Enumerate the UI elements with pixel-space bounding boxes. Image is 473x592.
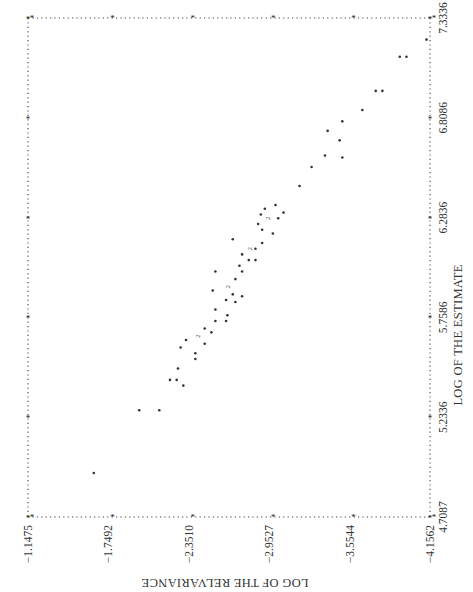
data-point bbox=[226, 314, 229, 317]
data-point bbox=[182, 384, 185, 387]
svg-text:*: * bbox=[351, 512, 356, 522]
data-point bbox=[254, 247, 257, 250]
data-point bbox=[272, 232, 275, 235]
y-tick-label: −4.1562 bbox=[424, 525, 436, 563]
data-points: 2222 bbox=[93, 38, 428, 474]
data-point bbox=[247, 259, 250, 262]
x-tick-label: 6.8086 bbox=[437, 102, 449, 134]
data-point bbox=[282, 211, 285, 214]
y-tick-label: −1.7492 bbox=[102, 525, 114, 563]
data-point bbox=[254, 259, 257, 262]
svg-text:*: * bbox=[191, 512, 196, 522]
data-point bbox=[310, 166, 313, 169]
data-point bbox=[324, 154, 327, 157]
svg-text:*: * bbox=[428, 114, 433, 124]
data-point-overlap: 2 bbox=[194, 334, 202, 338]
data-point bbox=[261, 242, 264, 245]
data-point bbox=[185, 339, 188, 342]
data-point bbox=[214, 320, 217, 323]
y-tick-label: −3.5544 bbox=[344, 525, 356, 563]
x-tick-label: 5.2336 bbox=[437, 401, 449, 433]
data-point-overlap: 2 bbox=[246, 246, 254, 250]
data-point bbox=[374, 90, 377, 93]
scatter-plot: ************************ 2222 4.70875.23… bbox=[0, 0, 473, 592]
data-point bbox=[203, 342, 206, 345]
data-point bbox=[194, 358, 197, 361]
svg-text:*: * bbox=[30, 13, 35, 23]
svg-text:*: * bbox=[271, 13, 276, 23]
data-point bbox=[210, 331, 213, 334]
axis-ticks: ************************ bbox=[26, 13, 437, 523]
x-tick-labels: 4.70875.23365.75866.28366.80867.3336 bbox=[437, 2, 449, 533]
data-point bbox=[231, 293, 234, 296]
svg-text:*: * bbox=[351, 13, 356, 23]
y-tick-label: −2.3510 bbox=[183, 525, 195, 563]
data-point bbox=[326, 130, 329, 133]
svg-text:*: * bbox=[26, 14, 31, 24]
data-point bbox=[361, 109, 364, 112]
y-tick-label: −1.1475 bbox=[22, 525, 34, 563]
data-point bbox=[234, 301, 237, 304]
data-point bbox=[194, 352, 197, 355]
y-axis-title: LOG OF THE RELVARIANCE bbox=[141, 576, 308, 590]
data-point bbox=[93, 472, 96, 475]
svg-text:*: * bbox=[30, 512, 35, 522]
svg-text:*: * bbox=[428, 313, 433, 323]
data-point bbox=[405, 55, 408, 58]
data-point bbox=[277, 217, 280, 220]
data-point bbox=[274, 204, 277, 207]
svg-text:*: * bbox=[26, 313, 31, 323]
data-point bbox=[261, 228, 264, 231]
svg-text:*: * bbox=[191, 13, 196, 23]
x-tick-label: 4.7087 bbox=[437, 501, 449, 533]
data-point bbox=[381, 90, 384, 93]
data-point bbox=[257, 223, 260, 226]
svg-text:*: * bbox=[110, 13, 115, 23]
data-point bbox=[169, 379, 172, 382]
x-axis-title: LOG OF THE ESTIMATE bbox=[451, 264, 465, 405]
data-point bbox=[338, 139, 341, 142]
data-point bbox=[211, 289, 214, 292]
data-point bbox=[398, 55, 401, 58]
x-tick-label: 6.2836 bbox=[437, 202, 449, 234]
data-point bbox=[203, 327, 206, 330]
data-point bbox=[234, 278, 237, 281]
data-point bbox=[238, 265, 241, 268]
data-point bbox=[214, 308, 217, 311]
svg-text:*: * bbox=[432, 512, 437, 522]
plot-frame bbox=[28, 18, 430, 517]
data-point bbox=[138, 409, 141, 412]
y-tick-labels: −1.1475−1.7492−2.3510−2.9527−3.5544−4.15… bbox=[22, 525, 436, 563]
data-point bbox=[214, 270, 217, 273]
svg-text:*: * bbox=[26, 214, 31, 224]
data-point bbox=[179, 346, 182, 349]
data-point bbox=[425, 38, 428, 41]
svg-text:*: * bbox=[432, 13, 437, 23]
data-point bbox=[341, 156, 344, 159]
svg-text:*: * bbox=[26, 114, 31, 124]
data-point bbox=[158, 409, 161, 412]
data-point bbox=[264, 207, 267, 210]
data-point-overlap: 2 bbox=[224, 284, 232, 288]
x-tick-label: 7.3336 bbox=[437, 2, 449, 34]
data-point bbox=[225, 299, 228, 302]
data-point bbox=[260, 213, 263, 216]
data-point bbox=[241, 270, 244, 273]
svg-text:*: * bbox=[428, 513, 433, 523]
svg-text:*: * bbox=[428, 214, 433, 224]
svg-text:*: * bbox=[428, 14, 433, 24]
data-point bbox=[177, 367, 180, 370]
x-tick-label: 5.7586 bbox=[437, 301, 449, 333]
svg-text:*: * bbox=[428, 413, 433, 423]
data-point bbox=[231, 238, 234, 241]
svg-text:*: * bbox=[110, 512, 115, 522]
data-point bbox=[241, 253, 244, 256]
data-point bbox=[298, 185, 301, 188]
data-point bbox=[225, 320, 228, 323]
data-point bbox=[175, 379, 178, 382]
svg-text:*: * bbox=[26, 513, 31, 523]
data-point-overlap: 2 bbox=[265, 216, 273, 220]
svg-text:*: * bbox=[271, 512, 276, 522]
svg-text:*: * bbox=[26, 413, 31, 423]
y-tick-label: −2.9527 bbox=[263, 525, 275, 563]
